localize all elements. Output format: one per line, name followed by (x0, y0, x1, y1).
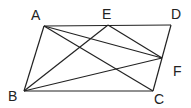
segment-ba (24, 26, 44, 91)
label-b: B (8, 88, 17, 104)
parallelogram-diagram: A E D F B C (0, 0, 191, 108)
label-a: A (31, 7, 41, 23)
segment-af (44, 26, 162, 58)
label-e: E (102, 6, 111, 22)
segment-ac (44, 26, 153, 91)
label-f: F (173, 63, 182, 79)
segments (24, 25, 171, 91)
segment-ef (108, 25, 162, 58)
label-d: D (171, 6, 181, 22)
label-c: C (154, 91, 164, 107)
